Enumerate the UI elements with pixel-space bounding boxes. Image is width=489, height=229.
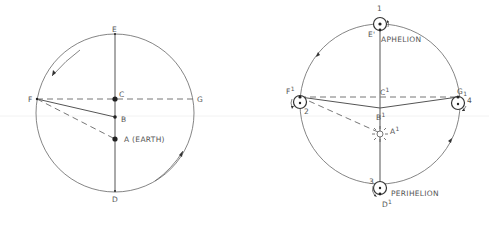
label-position-2: 2	[304, 107, 309, 116]
planet-position-4	[452, 95, 467, 111]
left-diagram: E F G C B A (EARTH) D	[28, 25, 203, 204]
left-arrow-lower-icon	[155, 151, 183, 181]
left-label-F: F	[28, 95, 33, 104]
label-position-1: 1	[377, 4, 382, 13]
right-line-B1G1	[380, 97, 458, 108]
rotation-arrow-icon	[291, 99, 292, 107]
label-D1: D1	[382, 198, 392, 209]
label-position-4: 4	[467, 96, 472, 105]
label-position-3: 3	[369, 177, 374, 186]
planet-position-3	[372, 182, 386, 198]
label-perihelion: PERIHELION	[391, 189, 439, 198]
label-F1: F1	[286, 85, 295, 96]
orbit-arrow-upper-left-icon	[316, 52, 320, 57]
left-label-A-earth: A (EARTH)	[124, 135, 165, 144]
label-aphelion: APHELION	[381, 35, 421, 44]
label-C1: C1	[380, 86, 390, 97]
left-point-F	[36, 98, 38, 100]
left-label-E: E	[112, 25, 117, 34]
left-label-D: D	[112, 195, 118, 204]
left-label-G: G	[197, 95, 203, 104]
left-point-B	[113, 115, 117, 119]
orbit-diagrams: E F G C B A (EARTH) D	[0, 0, 489, 229]
left-label-C: C	[119, 90, 125, 99]
label-E-prime: E'	[368, 30, 375, 39]
left-label-B: B	[121, 115, 126, 124]
planet-position-1	[374, 18, 390, 32]
left-point-A-earth	[112, 136, 117, 141]
left-line-FA	[37, 99, 115, 139]
orbit-arrow-lower-right-icon	[448, 138, 452, 143]
left-point-D	[114, 190, 116, 192]
left-point-C	[112, 96, 117, 101]
label-G1: G1	[457, 87, 467, 97]
left-arrow-upper-icon	[52, 50, 80, 76]
sun-icon	[372, 126, 388, 142]
right-diagram: 1 E' APHELION F1 2 C1 G1 4 B1 A1 3 PERIH…	[286, 4, 472, 209]
label-B1: B1	[376, 111, 386, 122]
left-line-FB	[37, 99, 115, 117]
label-A1: A1	[390, 125, 400, 136]
